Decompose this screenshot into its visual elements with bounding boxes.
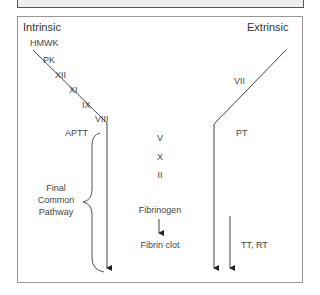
pt-label: PT <box>236 128 248 138</box>
factor-x: X <box>157 152 163 162</box>
fibrinogen-label: Fibrinogen <box>139 205 182 215</box>
factor-hmwk: HMWK <box>30 38 59 48</box>
factor-pk: PK <box>43 55 55 65</box>
factor-ix: IX <box>82 100 91 110</box>
factor-vii: VII <box>234 76 245 86</box>
final-common-line2: Common <box>38 195 75 205</box>
aptt-label: APTT <box>65 128 88 138</box>
factor-xii: XII <box>55 70 66 80</box>
factor-ii: II <box>157 170 162 180</box>
factor-viii: VIII <box>95 114 109 124</box>
tt-rt-label: TT, RT <box>241 240 268 250</box>
intrinsic-arrow <box>33 50 107 268</box>
common-pathway-brace <box>83 133 104 272</box>
extrinsic-title: Extrinsic <box>247 21 289 33</box>
intrinsic-title: Intrinsic <box>23 21 61 33</box>
final-common-line1: Final <box>46 183 66 193</box>
extrinsic-arrow <box>214 50 286 268</box>
factor-xi: XI <box>69 85 78 95</box>
fibrin-clot-label: Fibrin clot <box>140 240 179 250</box>
factor-v: V <box>157 133 163 143</box>
final-common-line3: Pathway <box>39 207 74 217</box>
